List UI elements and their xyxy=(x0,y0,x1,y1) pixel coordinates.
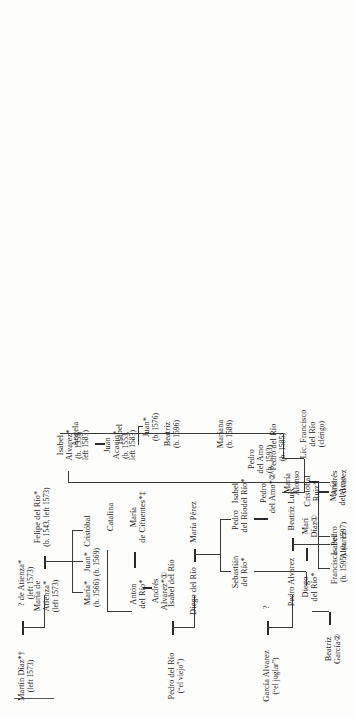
marriage-line-martin-atienza xyxy=(22,621,24,635)
marriage-line-anton-cifuentes xyxy=(134,552,136,568)
node-sublabel-3: left 1583) xyxy=(129,419,137,471)
node-sublabel: (b. 1596) xyxy=(173,406,181,462)
node-sublabel: (b. 1589) xyxy=(226,406,234,462)
connector-pedroamo-children-v xyxy=(282,492,304,493)
node-garcia-wife-unknown: ? xyxy=(263,595,272,619)
connector-felipe-children-v xyxy=(44,561,72,562)
connector-anton-group-h xyxy=(107,550,108,612)
connector-diego-children-v xyxy=(194,554,220,555)
marriage-line-beatriz-diego xyxy=(329,612,331,625)
node-sublabel: (b. 1543, left 1573) xyxy=(43,478,51,556)
node-beatriz-garcia: Beatriz García② xyxy=(325,625,343,673)
connector-martin-children-v xyxy=(22,627,44,628)
node-sublabel-3: left 1583) xyxy=(82,419,90,471)
node-angela: Angela xyxy=(72,406,81,462)
connector-diego-to-beatriz xyxy=(312,611,329,612)
node-sublabel: García② xyxy=(334,625,343,673)
node-garcia-alvarez: García Alvarez (“el juglar”) xyxy=(263,637,280,715)
node-maria-de-atienza: María de Atienza* (left 1573) xyxy=(34,571,59,621)
connector-juanacacio-to-juan1576-v xyxy=(138,426,143,427)
marriage-line-pedro-isabel xyxy=(172,621,174,635)
connector-to-beatriz-1596 xyxy=(152,433,163,434)
connector-juanacacio-to-juan1576 xyxy=(138,427,139,445)
marriage-line-juan-isabel-alvarez3 xyxy=(95,443,105,445)
node-maria-alonso: María Alonso xyxy=(284,459,302,507)
marriage-line-maria-felipe xyxy=(44,556,46,569)
node-sublabel: (“el juglar”) xyxy=(272,637,280,715)
node-beatriz-1596: Beatriz (b. 1596) xyxy=(164,406,181,462)
node-juan-1576: Juan* (b. 1576) xyxy=(143,401,160,453)
node-sublabel: (“el viejo”) xyxy=(177,637,185,715)
node-label: ? xyxy=(263,595,272,619)
connector-garcia-to-pedro-alvarez-v xyxy=(267,627,292,628)
node-sublabel: Alvarez*① xyxy=(161,563,170,619)
node-pedro-alvarez: Pedro Alvarez xyxy=(288,551,297,613)
connector-cristobalruiz-children-h xyxy=(318,519,319,569)
connector-to-lic-francisco xyxy=(286,458,300,459)
connector-to-pedro-rio2 xyxy=(220,519,231,520)
node-sublabel: del Río* xyxy=(311,562,320,612)
node-label: María Pérez xyxy=(190,496,199,548)
node-isabel-last: Isabel xyxy=(116,406,125,462)
connector-to-pedro-rio-1585 xyxy=(258,433,269,434)
connector-to-francisca xyxy=(318,568,330,569)
node-cristobal: Cristóbal xyxy=(84,507,93,555)
connector-felipe-children-h xyxy=(72,531,73,593)
node-sublabel: (left 1573) xyxy=(27,637,35,715)
connector-to-maria-1566 xyxy=(72,592,83,593)
node-maria-perez: María Pérez xyxy=(190,496,199,548)
node-lic-francisco-del-rio: Lic. Francisco del Río (clérigo) xyxy=(300,399,325,469)
node-sublabel: (b. 1576) xyxy=(152,401,160,453)
node-sublabel: (b. 1569) xyxy=(93,538,101,586)
node-mariana-1589: Mariana (b. 1589) xyxy=(217,406,234,462)
node-pedro-del-rio-viejo: Pedro del Río (“el viejo”) xyxy=(168,637,185,715)
node-maria-de-cifuentes: María de Cifuentes*‡ xyxy=(130,481,148,553)
node-pedro-del-rio-1585: Pedro del Río (b. 1585) xyxy=(270,411,287,483)
marriage-line-diego-maria-perez xyxy=(194,549,196,562)
genealogy-chart: Martín Díaz*† (left 1573) ? de Atienza* … xyxy=(0,0,355,717)
marriage-line-cristobalruiz-mariaamo xyxy=(319,489,329,493)
rotated-page-wrapper: Martín Díaz*† (left 1573) ? de Atienza* … xyxy=(0,0,355,717)
node-label: Catalina xyxy=(107,489,116,545)
node-anton-del-rio: Antón del Río* xyxy=(130,569,148,619)
connector-to-pedro1597 xyxy=(318,536,330,537)
node-felipe-del-rio: Felipe del Río* (b. 1543, left 1573) xyxy=(34,478,51,556)
node-sublabel: del Río* xyxy=(241,546,250,598)
node-andres-alvarez-2: Andrés Alvarez*① xyxy=(152,563,170,619)
node-pedro-1597: Pedro (b. 1597) xyxy=(331,511,348,561)
node-label: Isabel xyxy=(116,406,125,462)
connector-to-isabel-alvarez1 xyxy=(318,544,330,545)
node-catalina: Catalina xyxy=(107,489,116,545)
connector-sebastian-children-v xyxy=(254,571,306,572)
connector-to-juan-1569 xyxy=(72,561,83,562)
node-sebastian-del-rio: Sebastián del Río* xyxy=(232,546,250,598)
node-martin-diaz: Martín Díaz*† (left 1573) xyxy=(18,637,35,715)
connector-to-cristobal xyxy=(72,530,83,531)
node-label: Pedro Alvarez xyxy=(288,551,297,613)
marriage-line-diego-mari-diaz xyxy=(306,548,308,561)
node-label: Cristóbal xyxy=(84,507,93,555)
footnote-separator xyxy=(14,698,54,699)
connector-to-angela xyxy=(60,433,71,434)
marriage-line-garcia-unknown xyxy=(267,621,269,635)
node-sublabel: del Río* xyxy=(139,569,148,619)
connector-to-isabel-last xyxy=(104,433,115,434)
node-label: Angela xyxy=(72,406,81,462)
connector-to-sebastian xyxy=(220,571,231,572)
node-sublabel: (b. 1585) xyxy=(279,411,287,483)
node-sublabel: de Cifuentes*‡ xyxy=(139,481,148,553)
node-sublabel-2: (left 1573) xyxy=(52,571,60,621)
node-diego-del-rio: Diego del Río xyxy=(190,563,199,619)
node-label: Diego del Río xyxy=(190,563,199,619)
connector-anton-group-v xyxy=(107,611,132,612)
node-isabel-del-rio-2: Isabel del Río* xyxy=(232,465,250,521)
connector-pedrorioviejo-children-v xyxy=(172,627,194,628)
node-sublabel-2: (clérigo) xyxy=(318,399,326,469)
connector-diego-children-h xyxy=(220,520,221,572)
node-sublabel: (b. 1597) xyxy=(340,511,348,561)
node-diego-del-rio-son: Diego del Río* xyxy=(302,562,320,612)
marriage-line-andres2-vertical xyxy=(143,587,152,589)
connector-to-mariana xyxy=(205,433,216,434)
